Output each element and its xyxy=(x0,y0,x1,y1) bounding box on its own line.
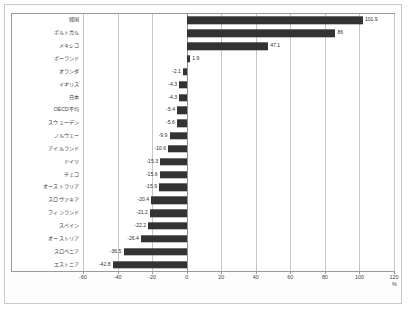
x-axis-tick-label: 60 xyxy=(287,275,293,280)
bar-row: フィンランド-21.2 xyxy=(11,207,394,220)
bar xyxy=(141,235,187,242)
bar-row: OECD平均-5.4 xyxy=(11,104,394,117)
bar-value-label: -2.1 xyxy=(172,69,181,74)
chart-screenshot: 韓国101.9ポルトガル86メキシコ47.1ポーランド1.9オランダ-2.1イギ… xyxy=(0,0,412,314)
bar-value-label: -15.3 xyxy=(146,159,158,164)
bar xyxy=(187,17,363,24)
bar-value-label: 47.1 xyxy=(270,44,280,49)
bar-value-label: -5.6 xyxy=(166,121,175,126)
x-axis-tick-label: -20 xyxy=(148,275,156,280)
category-label-cell: スウェーデン xyxy=(11,117,83,130)
category-label: スウェーデン xyxy=(48,121,79,126)
bar-value-label: -42.8 xyxy=(99,262,111,267)
category-label-cell: メキシコ xyxy=(11,40,83,53)
x-axis-tick-label: -60 xyxy=(79,275,87,280)
bar-row: ノルウェー-9.9 xyxy=(11,130,394,143)
category-label: ポルトガル xyxy=(54,31,80,36)
category-label: ノルウェー xyxy=(54,134,80,139)
category-label-cell: スロベニア xyxy=(11,245,83,258)
category-label-cell: オーストリア xyxy=(11,232,83,245)
bar-row: スペイン-22.2 xyxy=(11,220,394,233)
bar-row: エストニア-42.8 xyxy=(11,258,394,271)
bar xyxy=(179,81,186,88)
category-label-cell: ポルトガル xyxy=(11,27,83,40)
bar xyxy=(177,120,187,127)
bar xyxy=(160,171,187,178)
bar xyxy=(187,55,190,62)
bar-value-label: -15.6 xyxy=(146,172,158,177)
bar xyxy=(168,145,186,152)
category-label: OECD平均 xyxy=(54,108,79,113)
bar-value-label: -26.4 xyxy=(127,236,139,241)
bar-row: チェコ-15.6 xyxy=(11,168,394,181)
bar-row: スウェーデン-5.6 xyxy=(11,117,394,130)
bar-row: スロベニア-36.5 xyxy=(11,245,394,258)
bar xyxy=(187,30,336,37)
bar-value-label: -9.9 xyxy=(159,134,168,139)
category-label: イギリス xyxy=(59,82,79,87)
category-label: オランダ xyxy=(59,69,79,74)
bar-value-label: -36.5 xyxy=(110,249,122,254)
category-label: 日本 xyxy=(69,95,79,100)
category-label-cell: チェコ xyxy=(11,168,83,181)
x-axis-tick-label: 80 xyxy=(322,275,328,280)
category-label-cell: アイルランド xyxy=(11,143,83,156)
bar-value-label: 101.9 xyxy=(365,18,378,23)
category-label-cell: スロヴァキア xyxy=(11,194,83,207)
category-label: スロヴァキア xyxy=(48,198,79,203)
category-label-cell: エストニア xyxy=(11,258,83,271)
bar xyxy=(160,158,186,165)
bar-value-label: -15.9 xyxy=(145,185,157,190)
bar xyxy=(183,68,187,75)
bar xyxy=(159,184,186,191)
gridline xyxy=(394,14,395,271)
bar-value-label: -4.3 xyxy=(168,95,177,100)
category-label: 韓国 xyxy=(69,18,79,23)
bar-value-label: -20.4 xyxy=(138,198,150,203)
category-label-cell: スペイン xyxy=(11,220,83,233)
category-label: オーストリア xyxy=(48,236,79,241)
bar-row: ポルトガル86 xyxy=(11,27,394,40)
category-label: ポーランド xyxy=(54,56,80,61)
category-label: エストニア xyxy=(54,262,80,267)
category-label-cell: オーストラリア xyxy=(11,181,83,194)
bar xyxy=(148,222,186,229)
category-label-cell: 韓国 xyxy=(11,14,83,27)
category-label-cell: ドイツ xyxy=(11,155,83,168)
category-label: ドイツ xyxy=(64,159,79,164)
category-label: アイルランド xyxy=(48,146,79,151)
category-label-cell: OECD平均 xyxy=(11,104,83,117)
bar xyxy=(177,107,186,114)
category-label: メキシコ xyxy=(59,44,79,49)
category-label-cell: イギリス xyxy=(11,78,83,91)
bar-row: ポーランド1.9 xyxy=(11,53,394,66)
bar-value-label: -4.3 xyxy=(168,82,177,87)
category-label: フィンランド xyxy=(48,211,79,216)
category-label-cell: 日本 xyxy=(11,91,83,104)
bar-row: オランダ-2.1 xyxy=(11,65,394,78)
bar xyxy=(170,132,187,139)
bar-value-label: 86 xyxy=(337,31,343,36)
bar-value-label: -5.4 xyxy=(166,108,175,113)
bar-row: イギリス-4.3 xyxy=(11,78,394,91)
x-axis-unit-label: % xyxy=(392,282,397,287)
category-label: スペイン xyxy=(59,223,79,228)
x-axis-tick-label: 20 xyxy=(218,275,224,280)
bar-value-label: -21.2 xyxy=(136,211,148,216)
x-axis-tick-label: 0 xyxy=(185,275,188,280)
bar-row: アイルランド-10.6 xyxy=(11,143,394,156)
bar-row: ドイツ-15.3 xyxy=(11,155,394,168)
bar-value-label: -22.2 xyxy=(134,223,146,228)
bar xyxy=(179,94,186,101)
x-axis: -60-40-20020406080100120 xyxy=(11,272,394,292)
bar xyxy=(113,261,187,268)
bar xyxy=(150,209,187,216)
bar xyxy=(151,197,186,204)
x-axis-tick-label: 120 xyxy=(390,275,399,280)
bar-row: 韓国101.9 xyxy=(11,14,394,27)
bar xyxy=(187,42,268,49)
category-label-cell: ポーランド xyxy=(11,53,83,66)
x-axis-tick-label: 40 xyxy=(253,275,259,280)
category-label: スロベニア xyxy=(54,249,80,254)
bar-row: オーストラリア-15.9 xyxy=(11,181,394,194)
